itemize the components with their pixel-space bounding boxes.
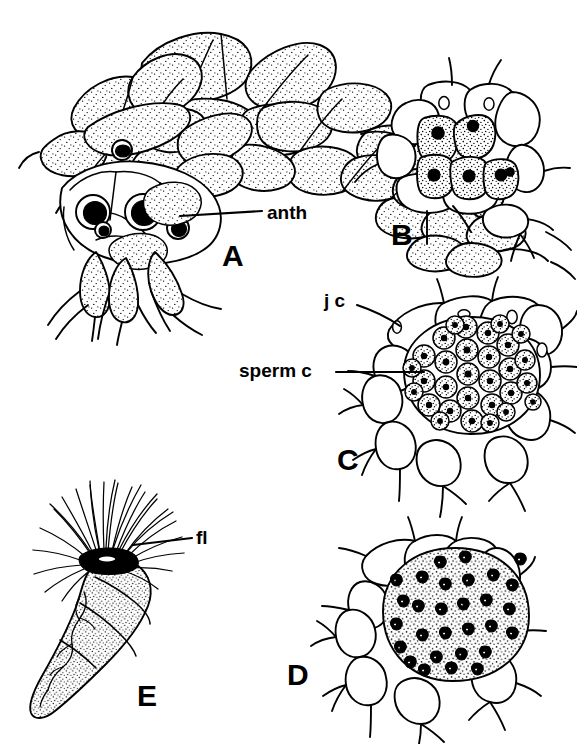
panel-letter-a: A <box>222 241 244 271</box>
panel-letter-e: E <box>137 681 157 711</box>
panel-a-antheridium-5 <box>95 222 111 238</box>
callout-label-anth: anth <box>267 203 307 222</box>
panel-a-antheridium-6 <box>112 140 132 160</box>
panel-letter-c: C <box>337 445 359 475</box>
panel-e-artwork <box>30 480 192 718</box>
figure-plate: anth j c sperm c fl A B C D E <box>0 0 577 744</box>
panel-c-artwork <box>336 277 577 517</box>
panel-letter-b: B <box>391 220 413 250</box>
callout-label-jc: j c <box>324 291 345 310</box>
callout-label-fl: fl <box>196 528 208 547</box>
fl-leader-line <box>133 538 192 545</box>
panel-d-artwork <box>311 517 546 744</box>
callout-label-sperm-c: sperm c <box>239 361 312 380</box>
panel-letter-d: D <box>287 660 309 690</box>
jc-leader-line <box>357 305 400 326</box>
